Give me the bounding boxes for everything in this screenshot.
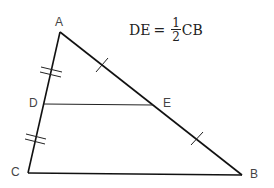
fraction-numerator: 1 [171, 17, 181, 30]
midsegment-formula: DE = 1 2 CB [129, 17, 203, 43]
diagram-canvas: A D E C B DE = 1 2 CB [0, 0, 274, 188]
fraction-denominator: 2 [172, 30, 180, 43]
formula-lhs: DE [129, 22, 150, 38]
label-e: E [163, 97, 171, 109]
label-c: C [11, 166, 20, 178]
formula-rhs: CB [182, 22, 203, 38]
side-cb [28, 173, 242, 175]
label-d: D [29, 97, 38, 109]
side-ab [60, 32, 242, 175]
label-a: A [55, 16, 63, 28]
tick-ae [96, 58, 108, 72]
formula-fraction: 1 2 [171, 17, 181, 43]
formula-equals: = [153, 22, 165, 38]
midsegment-de [44, 104, 153, 105]
label-b: B [250, 168, 258, 180]
